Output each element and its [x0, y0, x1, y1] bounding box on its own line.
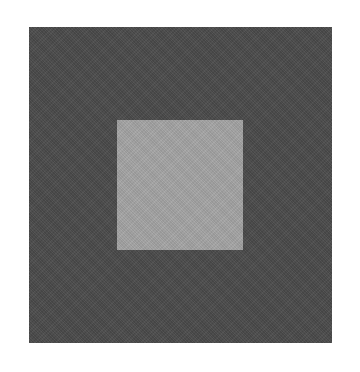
inner-light-square — [117, 120, 243, 250]
